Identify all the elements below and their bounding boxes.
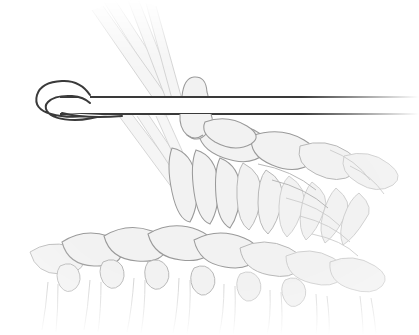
crochet-illustration (0, 0, 419, 335)
illustration-canvas (0, 0, 419, 335)
hook-shaft (60, 97, 419, 114)
